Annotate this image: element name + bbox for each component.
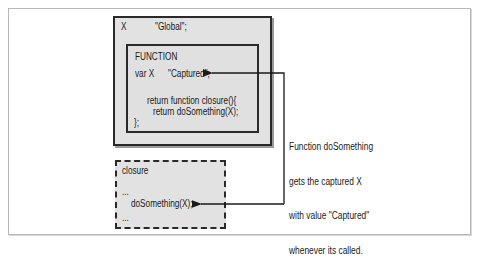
- callout-line-3: with value "Captured": [289, 210, 373, 222]
- callout-line-1: Function doSomething: [289, 141, 373, 153]
- callout-text: Function doSomething gets the captured X…: [289, 118, 373, 258]
- arrow-to-captured: [212, 73, 284, 204]
- callout-line-2: gets the captured X: [289, 176, 373, 188]
- callout-line-4: whenever its called.: [289, 245, 373, 257]
